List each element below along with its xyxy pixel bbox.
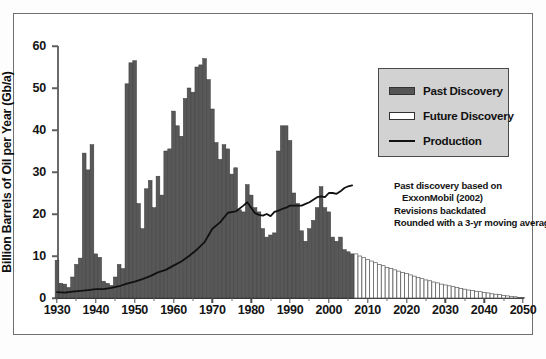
annotation-line-1: Past discovery based on [394, 180, 544, 192]
x-axis-minor-tick [154, 298, 155, 301]
annotation-line-2: ExxonMobil (2002) [394, 192, 544, 204]
x-axis-tick-label: 2010 [354, 303, 381, 317]
x-axis-tick-mark [95, 298, 96, 303]
x-axis-minor-tick [76, 298, 77, 301]
x-axis-tick-mark [289, 298, 290, 303]
x-axis-tick-label: 1940 [83, 303, 110, 317]
legend-item-future-discovery: Future Discovery [389, 103, 508, 128]
production-line-swatch-icon [389, 134, 415, 147]
x-axis-tick-label: 2040 [471, 303, 498, 317]
y-axis-tick-label: 60 [12, 39, 46, 53]
x-axis-tick-mark [212, 298, 213, 303]
production-line [57, 185, 352, 292]
x-axis-minor-tick [503, 298, 504, 301]
y-axis-tick-label: 50 [12, 81, 46, 95]
x-axis-tick-label: 1970 [199, 303, 226, 317]
past-discovery-swatch-icon [389, 84, 415, 97]
x-axis-tick-mark [328, 298, 329, 303]
x-axis-minor-tick [387, 298, 388, 301]
x-axis-tick-label: 2020 [393, 303, 420, 317]
x-axis-tick-label: 1930 [44, 303, 71, 317]
legend-item-production: Production [389, 128, 508, 153]
chart-figure: Billion Barrels of Oil per Year (Gb/a) 0… [0, 0, 546, 359]
y-axis-tick-label: 10 [12, 249, 46, 263]
annotation-line-4: Rounded with a 3-yr moving average [394, 217, 544, 229]
chart-annotation: Past discovery based on ExxonMobil (2002… [394, 180, 544, 230]
x-axis-tick-label: 2030 [432, 303, 459, 317]
x-axis-tick-mark [483, 298, 484, 303]
x-axis-tick-label: 1950 [121, 303, 148, 317]
x-axis-minor-tick [309, 298, 310, 301]
y-axis-tick-label: 40 [12, 123, 46, 137]
x-axis-tick-mark [56, 298, 57, 303]
chart-legend: Past Discovery Future Discovery Producti… [378, 68, 509, 157]
y-axis-tick-label: 30 [12, 165, 46, 179]
x-axis-tick-mark [406, 298, 407, 303]
x-axis-minor-tick [192, 298, 193, 301]
y-axis-tick-label: 0 [12, 291, 46, 305]
legend-label-production: Production [423, 134, 482, 147]
x-axis-tick-mark [367, 298, 368, 303]
x-axis-tick-label: 1980 [238, 303, 265, 317]
x-axis-minor-tick [115, 298, 116, 301]
x-axis-minor-tick [348, 298, 349, 301]
x-axis-tick-mark [522, 298, 523, 303]
x-axis-tick-label: 2050 [510, 303, 537, 317]
x-axis-tick-label: 1990 [277, 303, 304, 317]
x-axis-tick-label: 2000 [316, 303, 343, 317]
x-axis-minor-tick [231, 298, 232, 301]
legend-item-past-discovery: Past Discovery [389, 78, 508, 103]
legend-label-past-discovery: Past Discovery [423, 84, 503, 97]
x-axis-tick-mark [445, 298, 446, 303]
x-axis-tick-mark [173, 298, 174, 303]
x-axis-minor-tick [425, 298, 426, 301]
annotation-line-3: Revisions backdated [394, 205, 544, 217]
x-axis-minor-tick [270, 298, 271, 301]
legend-label-future-discovery: Future Discovery [423, 109, 514, 122]
x-axis-tick-mark [134, 298, 135, 303]
y-axis-tick-label: 20 [12, 207, 46, 221]
x-axis-tick-mark [250, 298, 251, 303]
x-axis-tick-label: 1960 [160, 303, 187, 317]
future-discovery-swatch-icon [389, 109, 415, 122]
x-axis-minor-tick [464, 298, 465, 301]
